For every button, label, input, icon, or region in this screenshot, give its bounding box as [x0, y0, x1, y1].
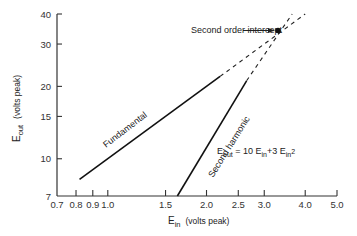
y-axis-title-sub: out: [16, 124, 25, 135]
x-tick-label: 0.8: [69, 199, 82, 210]
y-tick-label: 40: [40, 9, 51, 20]
svg-text:Eout(volts peak): Eout(volts peak): [11, 75, 25, 142]
chart-canvas: 71015203040 0.70.80.91.01.52.02.53.04.05…: [0, 0, 357, 236]
fundamental-label: Fundamental: [101, 110, 149, 150]
series-line-fundamental: [80, 76, 221, 179]
y-tick-label: 10: [40, 153, 51, 164]
x-tick-label: 4.0: [299, 199, 312, 210]
y-axis-ticks: 71015203040: [40, 9, 62, 202]
x-tick-label: 2.0: [200, 199, 213, 210]
x-tick-label: 5.0: [330, 199, 343, 210]
y-tick-label: 20: [40, 81, 51, 92]
x-tick-label: 2.5: [232, 199, 245, 210]
x-tick-label: 0.9: [86, 199, 99, 210]
x-tick-label: 0.7: [50, 199, 63, 210]
y-axis-title: Eout(volts peak): [11, 75, 25, 142]
x-axis-title: Ein(volts peak): [168, 215, 230, 229]
series-extension-fundamental: [220, 14, 305, 76]
intercept-point: [275, 28, 281, 34]
y-tick-label: 15: [40, 111, 51, 122]
x-tick-label: 1.5: [159, 199, 172, 210]
series-lines: [80, 14, 306, 196]
y-axis-title-units: (volts peak): [12, 75, 22, 119]
x-tick-label: 1.0: [101, 199, 114, 210]
x-axis-title-sub: in: [175, 220, 181, 229]
axes: [57, 14, 337, 196]
x-axis-title-units: (volts peak): [186, 216, 230, 226]
y-tick-label: 30: [40, 39, 51, 50]
x-tick-label: 3.0: [258, 199, 271, 210]
x-axis-ticks: 0.70.80.91.01.52.02.53.04.05.0: [50, 190, 343, 210]
